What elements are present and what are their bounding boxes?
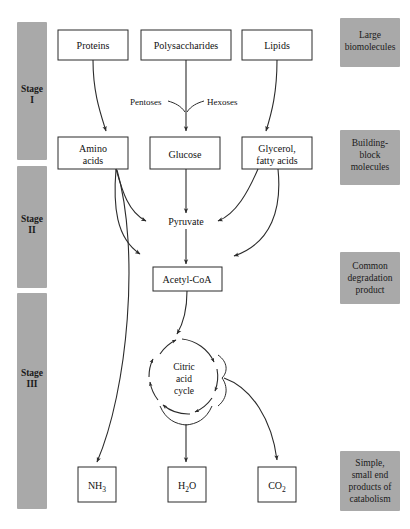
large-biomolecules-line-1: Large [359, 30, 381, 40]
stage-3-line1: Stage [21, 368, 43, 378]
node-ammonia[interactable]: NH3 [78, 467, 116, 502]
cycle-label-line1: Citric [173, 362, 195, 372]
water-base: H [178, 480, 185, 491]
arrow-amino-acids-to-ammonia [97, 170, 129, 462]
building-block-line-3: molecules [351, 162, 390, 172]
carbon-dioxide-sub: 2 [282, 485, 286, 494]
cycle-right-collector [218, 355, 226, 406]
label-pentoses: Pentoses [130, 97, 162, 107]
node-amino-acids-line1: Amino [79, 143, 107, 154]
arrow-amino-acids-to-pyruvate [116, 169, 146, 221]
tick-pentoses [168, 101, 185, 112]
node-proteins[interactable]: Proteins [58, 30, 128, 60]
cycle-arc-bottom-right [195, 398, 212, 412]
node-amino-acids[interactable]: Amino acids [58, 137, 128, 169]
common-degradation-line-3: product [355, 285, 384, 295]
diagram-canvas: Stage I Stage II Stage III Large biomole… [0, 0, 410, 529]
label-hexoses: Hexoses [207, 97, 238, 107]
arrow-fatty-acids-to-acetyl-coa [234, 169, 279, 256]
node-acetyl-coa[interactable]: Acetyl-CoA [153, 267, 222, 291]
stage-2-line1: Stage [21, 214, 43, 224]
side-panel-common-degradation-product: Common degradation product [340, 252, 400, 304]
stage-1-line1: Stage [21, 84, 43, 94]
end-products-line-3: products of [348, 482, 392, 492]
building-block-line-2: block [359, 150, 380, 160]
node-amino-acids-line2: acids [83, 155, 104, 166]
label-pyruvate: Pyruvate [168, 216, 204, 227]
arrow-glycerol-to-pyruvate [218, 169, 258, 221]
stage-band-2: Stage II [17, 166, 47, 288]
building-block-line-1: Building- [352, 138, 388, 148]
node-glycerol-line2: fatty acids [256, 155, 297, 166]
node-carbon-dioxide[interactable]: CO2 [258, 467, 296, 502]
citric-acid-cycle-ring[interactable]: Citric acid cycle [149, 339, 218, 414]
catabolism-stages-diagram: Stage I Stage II Stage III Large biomole… [0, 0, 410, 529]
node-water[interactable]: H2O [168, 467, 206, 502]
common-degradation-line-2: degradation [348, 273, 393, 283]
ammonia-base: NH [88, 480, 102, 491]
node-lipids-label: Lipids [264, 40, 290, 51]
arrow-proteins-to-amino-acids [93, 60, 106, 131]
cycle-arc-bottom [163, 405, 190, 414]
cycle-label-line2: acid [176, 374, 192, 384]
side-panel-end-products: Simple, small end products of catabolism [340, 451, 400, 511]
stage-2-line2: II [28, 225, 36, 235]
cycle-label-line3: cycle [174, 386, 194, 396]
cycle-arc-bottom-left [150, 382, 158, 400]
tick-hexoses [187, 101, 204, 112]
node-lipids[interactable]: Lipids [242, 30, 312, 60]
node-proteins-label: Proteins [77, 40, 110, 51]
node-glycerol-fatty-acids[interactable]: Glycerol, fatty acids [242, 137, 312, 169]
cycle-arc-top-right [182, 339, 214, 362]
common-degradation-line-1: Common [352, 261, 388, 271]
ammonia-sub: 3 [102, 485, 106, 494]
cycle-arc-right [215, 369, 218, 391]
arrow-acetyl-coa-to-cycle [177, 291, 187, 334]
end-products-line-4: catabolism [349, 494, 391, 504]
water-tail: O [189, 480, 196, 491]
stage-3-line2: III [26, 379, 37, 389]
large-biomolecules-line-2: biomolecules [345, 42, 396, 52]
side-panel-building-block-molecules: Building- block molecules [340, 130, 400, 185]
node-glucose-line1: Glucose [169, 149, 202, 160]
end-products-line-1: Simple, [355, 458, 384, 468]
node-polysaccharides-label: Polysaccharides [154, 40, 219, 51]
stage-1-line2: I [30, 95, 34, 105]
node-glucose[interactable]: Glucose [150, 137, 220, 169]
arrow-cycle-to-carbon-dioxide [224, 378, 277, 460]
stage-band-3: Stage III [17, 293, 47, 509]
stage-band-1: Stage I [17, 22, 47, 160]
side-panel-large-biomolecules: Large biomolecules [340, 18, 400, 67]
carbon-dioxide-base: CO [268, 480, 282, 491]
cycle-arc-top-left [160, 340, 176, 354]
node-polysaccharides[interactable]: Polysaccharides [141, 30, 231, 60]
node-glycerol-line1: Glycerol, [258, 143, 296, 154]
node-acetyl-coa-label: Acetyl-CoA [163, 274, 213, 285]
arrow-lipids-to-glycerol [266, 60, 277, 131]
cycle-arc-left [149, 359, 153, 377]
end-products-line-2: small end [352, 470, 389, 480]
